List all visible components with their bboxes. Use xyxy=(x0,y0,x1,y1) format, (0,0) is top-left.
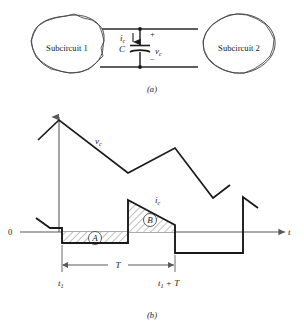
vc-trace-label: vc xyxy=(95,136,102,147)
t1-label: t1 xyxy=(58,278,64,289)
time-axis-label: t xyxy=(288,227,291,237)
vc-waveform xyxy=(38,120,230,198)
node-dot-bottom xyxy=(138,65,142,69)
caption-a: (a) xyxy=(147,84,157,94)
capacitor-label-c: C xyxy=(119,44,126,54)
subcircuit-1-label: Subcircuit 1 xyxy=(46,43,88,53)
node-dot-top xyxy=(138,27,142,31)
ic-trace-label: ic xyxy=(155,195,161,206)
figure-root: Subcircuit 1 Subcircuit 2 ic C + − vc (a… xyxy=(0,0,304,330)
origin-label: 0 xyxy=(8,227,12,237)
panel-a: Subcircuit 1 Subcircuit 2 ic C + − vc (a… xyxy=(31,14,275,94)
t1-plus-T-label: t1 + T xyxy=(158,278,180,289)
current-label-ic: ic xyxy=(120,33,126,44)
subcircuit-2-label: Subcircuit 2 xyxy=(218,43,260,53)
area-b-label: B xyxy=(147,215,153,225)
voltage-label-vc: vc xyxy=(155,46,162,57)
area-a-label: A xyxy=(91,233,98,243)
capacitor-plate-bottom xyxy=(130,50,150,52)
polarity-plus: + xyxy=(150,29,155,39)
panel-b: 0 t vc A B ic T t1 t1 + T (b) xyxy=(8,117,291,320)
caption-b: (b) xyxy=(147,310,157,320)
